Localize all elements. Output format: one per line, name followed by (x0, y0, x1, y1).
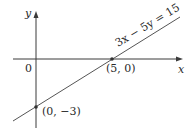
y-intercept-label: (0, −3) (42, 105, 81, 118)
x-axis-arrow-icon (176, 57, 183, 62)
y-axis-label: y (24, 7, 32, 20)
point-x-intercept (110, 57, 114, 61)
equation-label: 3x − 5y = 15 (113, 1, 182, 50)
origin-label: 0 (25, 62, 32, 75)
point-y-intercept (34, 105, 38, 109)
x-axis-label: x (178, 63, 185, 76)
graph: y x 0 (5, 0) (0, −3) 3x − 5y = 15 (0, 0, 194, 132)
x-intercept-label: (5, 0) (106, 62, 136, 75)
equation-line (13, 17, 180, 121)
y-axis-arrow-icon (34, 11, 39, 18)
